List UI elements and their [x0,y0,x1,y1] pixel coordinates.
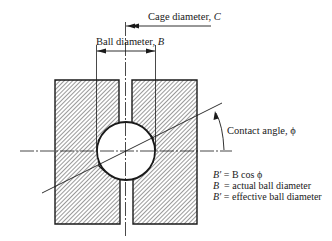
ball-symbol: B [158,36,164,47]
arrowhead-right-icon [146,49,155,54]
cage-symbol: C [214,11,221,22]
cage-diameter-text: Cage diameter, [148,11,214,22]
legend-text: = B cos ϕ [221,169,262,180]
bearing-diagram [0,0,332,241]
legend-line-2: B = actual ball diameter [213,181,311,191]
legend-text: = actual ball diameter [219,180,311,191]
ball-diameter-label: Ball diameter, B [96,37,164,48]
arrowhead-left-icon [97,49,106,54]
cage-diameter-label: Cage diameter, C [148,12,221,23]
legend-line-3: B′ = effective ball diameter [213,192,322,202]
legend-text: = effective ball diameter [221,191,321,202]
legend-line-1: B′ = B cos ϕ [213,170,262,180]
arrowhead-angle-icon [214,111,219,120]
ball-diameter-text: Ball diameter, [96,36,158,47]
contact-angle-label: Contact angle, ϕ [227,126,296,137]
